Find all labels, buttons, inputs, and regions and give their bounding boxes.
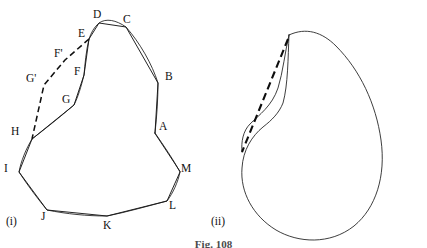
figure-caption: Fig. 108	[0, 239, 427, 248]
panel-ii-closed-curve	[242, 31, 382, 240]
vertex-label-D: D	[93, 9, 101, 21]
vertex-label-G-prime: G'	[26, 73, 36, 85]
panel-ii-dashed-chord	[242, 39, 288, 152]
vertex-label-J: J	[41, 211, 45, 223]
vertex-label-L: L	[169, 200, 176, 212]
panel-caption-ii: (ii)	[211, 216, 225, 228]
figure-root: A B C D E F' F G' G H I J K L M (i) (ii)…	[0, 0, 427, 248]
vertex-label-G: G	[62, 94, 70, 106]
vertex-label-C: C	[123, 14, 131, 26]
panel-i-inscribed-polygon	[19, 23, 180, 216]
vertex-label-K: K	[103, 220, 111, 232]
figure-svg-canvas	[0, 0, 427, 248]
vertex-label-A: A	[159, 121, 167, 133]
vertex-label-B: B	[165, 71, 173, 83]
vertex-label-E: E	[78, 28, 85, 40]
vertex-label-M: M	[181, 163, 191, 175]
vertex-label-F-prime: F'	[54, 48, 62, 60]
vertex-label-I: I	[4, 163, 8, 175]
vertex-label-F: F	[74, 66, 80, 78]
vertex-label-H: H	[11, 126, 19, 138]
panel-caption-i: (i)	[6, 216, 17, 228]
